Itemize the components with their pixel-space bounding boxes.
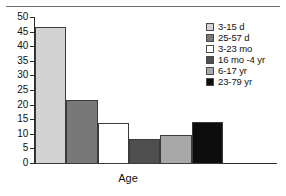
legend-item-label: 3-15 d — [218, 21, 244, 32]
y-axis-tick-label: 50 — [0, 12, 28, 22]
y-axis-tick-label: 5 — [0, 143, 28, 153]
y-axis-tick-label-text: 20 — [2, 100, 28, 110]
legend-item-label: 6-17 yr — [218, 65, 247, 76]
legend-item-label: 3-23 mo — [218, 43, 252, 54]
bar-16-mo-4-yr — [129, 139, 160, 164]
bars-group — [35, 17, 223, 164]
legend-item: 25-57 d — [206, 32, 284, 43]
legend-swatch-icon — [206, 56, 214, 64]
y-axis-tick-label: 20 — [0, 100, 28, 110]
legend-item-label: 23-79 yr — [218, 76, 252, 87]
y-axis-tick-label: 25 — [0, 85, 28, 95]
legend-swatch-icon — [206, 78, 214, 86]
y-axis-tick-label: 15 — [0, 114, 28, 124]
y-axis-tick-label-text: 25 — [2, 85, 28, 95]
y-axis-tick-label-text: 0 — [2, 158, 28, 168]
legend-item-label: 25-57 d — [218, 32, 250, 43]
y-axis-tick-label: 35 — [0, 56, 28, 66]
y-axis-tick-label-text: 30 — [2, 70, 28, 80]
legend-item-label: 16 mo -4 yr — [218, 54, 265, 65]
y-axis-tick-label: 40 — [0, 41, 28, 51]
legend-item: 16 mo -4 yr — [206, 54, 284, 65]
y-axis-tick-label-text: 40 — [2, 41, 28, 51]
y-axis-tick-label-text: 45 — [2, 27, 28, 37]
bar-3-15-d — [35, 27, 66, 164]
bar-3-23-mo — [98, 123, 129, 164]
bar-6-17-yr — [160, 135, 191, 164]
legend-swatch-icon — [206, 45, 214, 53]
bar-25-57-d — [66, 100, 97, 164]
legend-swatch-icon — [206, 23, 214, 31]
bar-23-79-yr — [192, 122, 223, 164]
legend: 3-15 d25-57 d3-23 mo16 mo -4 yr6-17 yr23… — [206, 21, 284, 87]
y-axis-tick-label-text: 15 — [2, 114, 28, 124]
top-divider — [6, 6, 280, 7]
y-axis-tick-label-text: 35 — [2, 56, 28, 66]
legend-swatch-icon — [206, 67, 214, 75]
y-axis-tick-label-text: 5 — [2, 143, 28, 153]
legend-item: 3-15 d — [206, 21, 284, 32]
y-axis-tick-label: 0 — [0, 158, 28, 168]
y-axis-tick-label-text: 50 — [2, 12, 28, 22]
legend-item: 3-23 mo — [206, 43, 284, 54]
bar-chart: 05101520253035404550 Age 3-15 d25-57 d3-… — [0, 0, 286, 196]
legend-swatch-icon — [206, 34, 214, 42]
legend-item: 23-79 yr — [206, 76, 284, 87]
y-axis-tick-label: 45 — [0, 27, 28, 37]
y-axis-tick-label-text: 10 — [2, 129, 28, 139]
legend-item: 6-17 yr — [206, 65, 284, 76]
x-axis-title: Age — [34, 172, 222, 185]
y-axis-tick-label: 10 — [0, 129, 28, 139]
y-axis-tick-label: 30 — [0, 70, 28, 80]
